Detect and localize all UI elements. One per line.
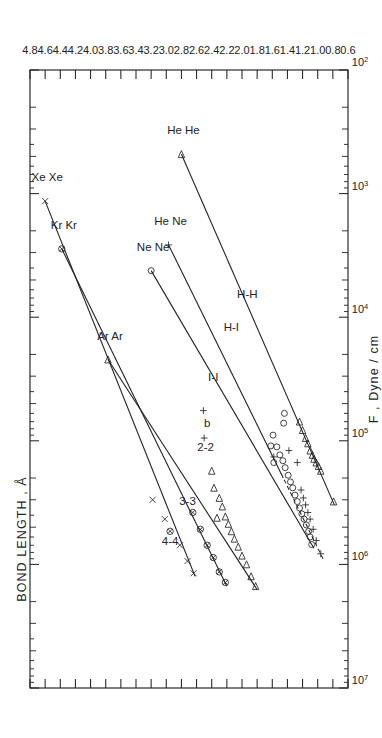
marker-plus (310, 526, 317, 533)
y-tick-label: 1.6 (265, 44, 280, 56)
marker-circle (287, 479, 293, 485)
y-tick-label: 3.0 (159, 44, 174, 56)
fit-line (108, 360, 257, 590)
y-tick-label: 4.2 (68, 44, 83, 56)
endpoint-label-nene: Ne Ne (137, 241, 170, 253)
y-tick-label: 1.0 (310, 44, 325, 56)
series-label-s33: 3-3 (179, 495, 196, 507)
marker-plus (200, 407, 207, 414)
series-layer (42, 151, 337, 590)
series-ii (148, 268, 315, 549)
y-axis-ticks (30, 70, 348, 688)
marker-circle (274, 444, 280, 450)
y-tick-label: 0.8 (325, 44, 340, 56)
scatter-plot-svg: 1071061051041031020.60.81.01.21.41.61.82… (0, 0, 382, 738)
marker-circle (290, 485, 296, 491)
y-tick-label: 4.8 (22, 44, 37, 56)
y-axis-title-group: BOND LENGTH , Å (14, 476, 29, 602)
marker-triangle (243, 561, 249, 568)
marker-x (42, 198, 48, 204)
y-tick-label: 3.8 (98, 44, 113, 56)
y-tick-label: 3.6 (113, 44, 128, 56)
x-axis-title-group: F , Dyne / cm (367, 335, 381, 424)
endpoint-label-krkr: Kr Kr (51, 219, 77, 231)
marker-triangle (219, 503, 225, 510)
marker-plus (302, 501, 309, 508)
y-tick-label: 2.8 (174, 44, 189, 56)
endpoint-label-hene: He Ne (154, 215, 187, 227)
y-tick-label: 2.0 (234, 44, 249, 56)
marker-triangle (239, 552, 245, 559)
endpoint-label-hehe: He He (167, 124, 200, 136)
series-label-sii: I-I (208, 371, 218, 383)
marker-circle (270, 432, 276, 438)
y-tick-label: 4.0 (83, 44, 98, 56)
fit-line (169, 245, 284, 478)
y-tick-label: 2.4 (204, 44, 219, 56)
figure-canvas: 1071061051041031020.60.81.01.21.41.61.82… (0, 0, 382, 738)
marker-plus (307, 516, 314, 523)
marker-plus (286, 447, 293, 454)
series-33 (59, 246, 229, 586)
y-tick-label: 0.6 (340, 44, 355, 56)
marker-x (184, 558, 190, 564)
marker-circle (292, 492, 298, 498)
x-tick-label: 105 (352, 426, 368, 439)
marker-plus (317, 550, 324, 557)
x-tick-label: 106 (352, 549, 368, 562)
x-tick-label: 107 (352, 673, 368, 686)
marker-triangle (209, 467, 215, 474)
y-tick-label: 4.4 (53, 44, 68, 56)
marker-x (162, 516, 168, 522)
y-tick-label: 2.2 (219, 44, 234, 56)
fit-line (62, 249, 227, 586)
fit-line (151, 271, 314, 549)
annotation-label-b: b (204, 417, 210, 429)
marker-plus (298, 487, 305, 494)
x-axis-title: F , Dyne / cm (367, 335, 381, 424)
marker-circle (285, 472, 291, 478)
marker-circle (280, 458, 286, 464)
marker-circle (282, 465, 288, 471)
marker-plus (304, 509, 311, 516)
endpoint-label-arar: Ar Ar (97, 330, 123, 342)
marker-triangle (178, 151, 184, 158)
y-tick-label: 2.6 (189, 44, 204, 56)
endpoint-label-xexe: Xe Xe (31, 171, 62, 183)
marker-plus (300, 495, 307, 502)
marker-circle (277, 452, 283, 458)
plot-frame (30, 70, 348, 688)
y-tick-label: 3.4 (128, 44, 143, 56)
marker-triangle (228, 528, 234, 535)
y-tick-label: 1.4 (280, 44, 295, 56)
marker-triangle (225, 520, 231, 527)
y-axis-title: BOND LENGTH , Å (14, 476, 29, 602)
marker-triangle (222, 513, 228, 520)
marker-crossed-circle (210, 554, 216, 560)
y-tick-label: 1.2 (295, 44, 310, 56)
y-tick-label: 1.8 (249, 44, 264, 56)
marker-triangle (211, 484, 217, 491)
marker-triangle (231, 535, 237, 542)
series-label-shh: H-H (237, 288, 257, 300)
marker-crossed-circle (167, 528, 173, 534)
marker-circle (281, 410, 287, 416)
x-tick-label: 103 (352, 179, 368, 192)
marker-circle (281, 420, 287, 426)
text-layer: 1071061051041031020.60.81.01.21.41.61.82… (22, 44, 368, 686)
marker-crossed-circle (222, 579, 228, 585)
x-tick-label: 104 (352, 302, 368, 315)
marker-triangle (235, 543, 241, 550)
marker-x (150, 497, 156, 503)
series-label-s22: 2-2 (197, 441, 214, 453)
marker-triangle (216, 494, 222, 501)
y-tick-label: 3.2 (143, 44, 158, 56)
marker-crossed-circle (204, 542, 210, 548)
series-22 (105, 356, 259, 590)
marker-triangle (214, 514, 220, 521)
series-label-s44: 4-4 (162, 535, 179, 547)
x-axis-ticks (30, 70, 348, 688)
x-tick-label: 102 (352, 55, 368, 68)
y-tick-label: 4.6 (37, 44, 52, 56)
rotated-plot-container: 1071061051041031020.60.81.01.21.41.61.82… (0, 0, 382, 738)
